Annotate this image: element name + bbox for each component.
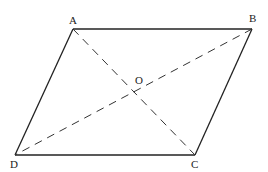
label-a: A: [69, 14, 77, 26]
label-c: C: [191, 158, 198, 170]
parallelogram-diagram: A B C D O: [0, 0, 268, 172]
diagram-svg: A B C D O: [0, 0, 268, 172]
label-d: D: [10, 158, 18, 170]
side-da: [15, 29, 73, 155]
label-b: B: [249, 12, 256, 24]
label-o: O: [135, 74, 143, 86]
side-bc: [195, 29, 252, 155]
